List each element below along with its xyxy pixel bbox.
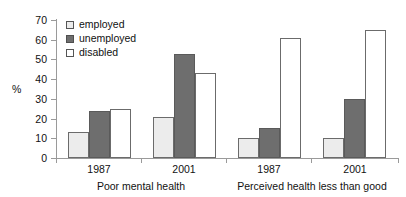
legend-item-disabled: disabled — [66, 46, 136, 59]
bar-unemployed-1987-poor-mental-health — [89, 111, 110, 158]
y-tick-20 — [51, 119, 56, 120]
bar-unemployed-2001-perceived-health — [344, 99, 365, 158]
legend-swatch-disabled-icon — [66, 49, 74, 57]
bar-employed-2001-perceived-health — [323, 138, 344, 158]
y-tick-70 — [51, 20, 56, 21]
legend-swatch-employed-icon — [66, 21, 74, 29]
y-tick-label-50: 50 — [7, 54, 47, 64]
bar-disabled-2001-poor-mental-health — [195, 73, 216, 158]
y-tick-label-10: 10 — [7, 133, 47, 143]
x-tick-start — [56, 158, 57, 163]
bar-group-2001-perceived-health — [323, 20, 393, 158]
x-label-2001-poor-mental-health: 2001 — [143, 163, 225, 175]
y-tick-label-60: 60 — [7, 35, 47, 45]
x-tick-3 — [311, 158, 312, 163]
y-tick-label-20: 20 — [7, 114, 47, 124]
x-label-1987-perceived-health: 1987 — [228, 163, 310, 175]
x-label-1987-poor-mental-health: 1987 — [58, 163, 140, 175]
y-tick-label-70: 70 — [7, 15, 47, 25]
x-label-2001-perceived-health: 2001 — [313, 163, 397, 175]
chart-legend: employed unemployed disabled — [66, 18, 136, 60]
legend-item-employed: employed — [66, 18, 136, 31]
bar-disabled-1987-perceived-health — [280, 38, 301, 158]
bar-unemployed-2001-poor-mental-health — [174, 54, 195, 158]
x-tick-end — [398, 158, 399, 163]
bar-group-1987-perceived-health — [238, 20, 308, 158]
bar-chart: % 70 60 50 40 30 20 10 0 — [0, 0, 406, 197]
bar-unemployed-1987-perceived-health — [259, 128, 280, 158]
bar-employed-1987-poor-mental-health — [68, 132, 89, 158]
x-tick-2 — [226, 158, 227, 163]
bar-employed-1987-perceived-health — [238, 138, 259, 158]
y-tick-50 — [51, 59, 56, 60]
y-tick-label-30: 30 — [7, 94, 47, 104]
y-tick-label-0: 0 — [7, 153, 47, 163]
x-tick-1 — [141, 158, 142, 163]
legend-label-disabled: disabled — [79, 47, 118, 58]
bar-group-2001-poor-mental-health — [153, 20, 223, 158]
x-axis-line — [56, 158, 399, 159]
bar-disabled-1987-poor-mental-health — [110, 109, 131, 158]
legend-label-unemployed: unemployed — [79, 33, 136, 44]
legend-item-unemployed: unemployed — [66, 32, 136, 45]
legend-swatch-unemployed-icon — [66, 35, 74, 43]
y-tick-10 — [51, 138, 56, 139]
y-tick-label-40: 40 — [7, 74, 47, 84]
x-super-label-perceived-health: Perceived health less than good — [226, 180, 398, 192]
x-super-label-poor-mental-health: Poor mental health — [56, 180, 226, 192]
bar-disabled-2001-perceived-health — [365, 30, 386, 158]
y-tick-60 — [51, 40, 56, 41]
y-tick-30 — [51, 99, 56, 100]
legend-label-employed: employed — [79, 19, 125, 30]
bar-employed-2001-poor-mental-health — [153, 117, 174, 158]
y-tick-40 — [51, 79, 56, 80]
